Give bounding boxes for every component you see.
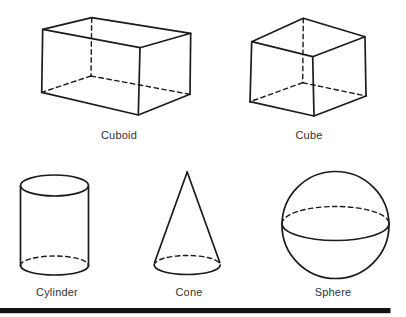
cuboid-drawing	[42, 18, 191, 115]
figure-canvas: Cuboid Cube Cylinder Cone Sphere	[0, 0, 406, 317]
cone-drawing	[154, 172, 220, 275]
label-cone: Cone	[175, 286, 202, 299]
cube-drawing	[250, 18, 366, 116]
sphere-drawing	[282, 172, 389, 279]
cylinder-drawing	[21, 175, 89, 275]
label-cube: Cube	[295, 129, 322, 142]
label-cuboid: Cuboid	[101, 129, 137, 142]
label-cylinder: Cylinder	[36, 286, 78, 299]
label-sphere: Sphere	[315, 286, 352, 299]
bottom-rule	[0, 308, 391, 313]
